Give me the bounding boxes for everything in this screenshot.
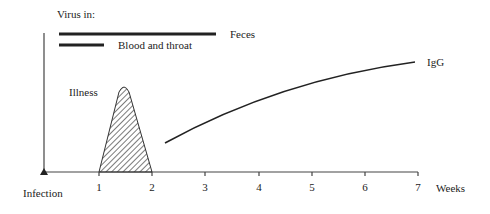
title-label: Virus in: (57, 9, 95, 20)
illness-label: Illness (69, 87, 98, 98)
tick-label-1: 1 (96, 182, 102, 193)
tick-label-7: 7 (415, 182, 421, 193)
infection-label: Infection (23, 188, 63, 199)
weeks-label: Weeks (436, 183, 465, 194)
tick-label-6: 6 (362, 182, 368, 193)
illness-shape (99, 87, 152, 172)
tick-label-5: 5 (309, 182, 315, 193)
feces-label: Feces (230, 29, 255, 40)
igg-curve (165, 62, 415, 143)
tick-label-2: 2 (149, 182, 155, 193)
tick-label-3: 3 (202, 182, 208, 193)
x-ticks (99, 172, 418, 176)
tick-label-4: 4 (256, 182, 262, 193)
igg-label: IgG (427, 57, 444, 68)
blood-throat-label: Blood and throat (118, 40, 192, 51)
